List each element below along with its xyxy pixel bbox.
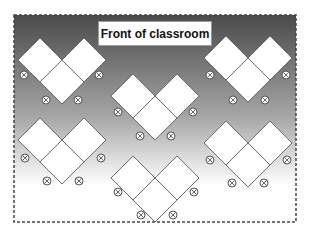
seat-circled-x-icon: [169, 211, 177, 219]
seat-circled-x-icon: [206, 156, 214, 164]
seat-circled-x-icon: [43, 177, 51, 185]
seat-circled-x-icon: [228, 179, 236, 187]
seat-circled-x-icon: [283, 156, 291, 164]
seat-circled-x-icon: [114, 108, 122, 116]
seat-circled-x-icon: [137, 211, 145, 219]
seat-circled-x-icon: [20, 71, 28, 79]
seat-circled-x-icon: [167, 132, 175, 140]
seat-circled-x-icon: [189, 108, 197, 116]
seat-circled-x-icon: [206, 71, 214, 79]
seat-circled-x-icon: [260, 179, 268, 187]
seat-circled-x-icon: [261, 96, 269, 104]
seat-circled-x-icon: [97, 154, 105, 162]
seat-circled-x-icon: [75, 177, 83, 185]
seat-circled-x-icon: [42, 96, 50, 104]
seat-circled-x-icon: [136, 132, 144, 140]
seat-circled-x-icon: [114, 188, 122, 196]
seat-circled-x-icon: [229, 96, 237, 104]
classroom-diagram: Front of classroom: [0, 0, 312, 237]
seat-circled-x-icon: [282, 71, 290, 79]
seat-circled-x-icon: [21, 154, 29, 162]
seat-circled-x-icon: [74, 96, 82, 104]
front-of-classroom-label: Front of classroom: [98, 21, 212, 46]
seat-circled-x-icon: [95, 71, 103, 79]
seat-circled-x-icon: [190, 188, 198, 196]
